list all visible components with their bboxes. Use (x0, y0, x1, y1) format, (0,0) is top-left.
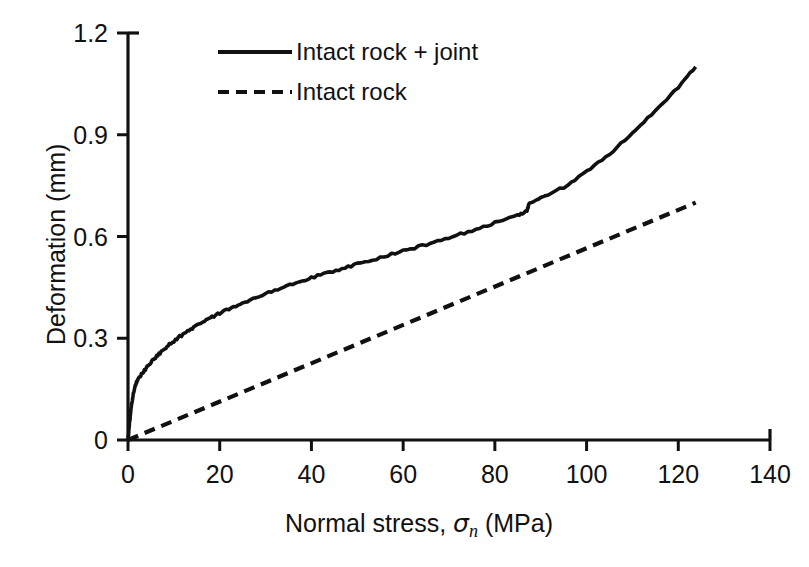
legend-label-1: Intact rock + joint (296, 38, 478, 66)
x-tick-label: 20 (206, 460, 234, 489)
x-tick-label: 80 (481, 460, 509, 489)
x-tick-label: 100 (566, 460, 608, 489)
data-series-group (128, 67, 696, 441)
sigma-symbol: σ (453, 509, 469, 538)
legend-line-samples (218, 52, 292, 92)
x-tick-label: 120 (657, 460, 699, 489)
legend-label-2: Intact rock (296, 78, 407, 106)
x-tick-label: 0 (121, 460, 135, 489)
y-tick-label: 1.2 (36, 19, 108, 48)
x-axis-title: Normal stress, σn (MPa) (285, 509, 553, 542)
y-tick-label: 0 (36, 426, 108, 455)
figure-canvas: 02040608010012014000.30.60.91.2 Deformat… (0, 0, 809, 567)
x-axis-title-prefix: Normal stress, (285, 509, 453, 537)
y-axis-title: Deformation (mm) (42, 144, 71, 345)
x-tick-label: 60 (389, 460, 417, 489)
x-tick-label: 40 (298, 460, 326, 489)
series-line-1 (128, 67, 696, 441)
sigma-subscript: n (469, 521, 478, 541)
x-axis-title-suffix: (MPa) (478, 509, 553, 537)
x-tick-label: 140 (749, 460, 791, 489)
series-line-2 (128, 203, 696, 440)
